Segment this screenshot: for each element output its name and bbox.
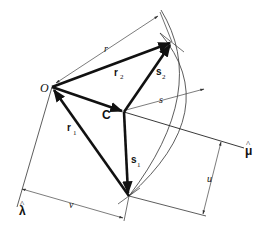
label-r1: r <box>67 122 71 133</box>
label-s2-sub: 2 <box>162 73 166 81</box>
vector-r1 <box>54 90 129 196</box>
inner-arc <box>129 33 186 196</box>
label-origin: O <box>40 81 49 95</box>
label-r2-sub: 2 <box>120 73 124 81</box>
u-dimension-line <box>203 142 221 214</box>
vector-s1 <box>124 112 128 193</box>
v-extension-line <box>124 196 129 221</box>
vector-r2 <box>52 43 170 87</box>
label-center: C <box>102 108 111 122</box>
label-r2: r <box>114 67 118 78</box>
vector-oc <box>52 87 122 111</box>
label-r1-sub: 1 <box>73 129 77 137</box>
label-s1-sub: 1 <box>137 161 141 169</box>
label-v-dimension: v <box>69 199 74 210</box>
orbit-geometry-diagram: O C r r 2 s 2 s r 1 s 1 u v μ ^ λ ^ <box>0 0 266 233</box>
label-r-dimension: r <box>104 43 108 54</box>
label-u-dimension: u <box>207 173 212 184</box>
u-extension-line <box>129 196 206 216</box>
label-s-dimension: s <box>159 94 163 105</box>
